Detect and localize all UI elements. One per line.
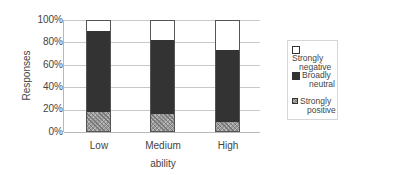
legend-item-strongly-positive: Stronglypositive — [292, 97, 336, 115]
bar-low-strongly-negative — [87, 21, 110, 31]
legend-item-broadly-neutral: Broadlyneutral — [292, 71, 335, 89]
legend-swatch-dark-icon — [292, 72, 300, 80]
y-tick-20: 20% — [43, 104, 63, 114]
bar-medium-broadly-neutral — [151, 40, 174, 114]
y-tick-40: 40% — [43, 82, 63, 92]
plot-area — [64, 20, 260, 132]
legend-swatch-hatched-icon — [292, 98, 298, 104]
y-tick-100: 100% — [37, 15, 63, 25]
x-tick-low: Low — [69, 140, 129, 151]
x-tick-high: High — [198, 140, 258, 151]
y-axis-label: Responses — [21, 46, 32, 106]
bar-medium — [150, 20, 175, 132]
y-tick-60: 60% — [43, 60, 63, 70]
y-tick-80: 80% — [43, 37, 63, 47]
x-tick-medium: Medium — [133, 140, 193, 151]
bar-low-broadly-neutral — [87, 31, 110, 112]
bar-medium-strongly-positive — [151, 114, 174, 131]
bar-high-strongly-negative — [216, 21, 239, 50]
x-axis-line — [64, 132, 260, 133]
bar-low-strongly-positive — [87, 112, 110, 131]
bar-high-strongly-positive — [216, 122, 239, 131]
bar-low — [86, 20, 111, 132]
bar-high — [215, 20, 240, 132]
bar-medium-strongly-negative — [151, 21, 174, 40]
y-tick-0: 0% — [49, 127, 63, 137]
legend-item-strongly-negative: Stronglynegative — [292, 45, 337, 72]
stacked-bar-chart: Responses 100% 80% 60% 40% 20% 0% — [0, 0, 394, 175]
legend: Stronglynegative Broadlyneutral Strongly… — [287, 40, 338, 120]
bar-high-broadly-neutral — [216, 50, 239, 122]
x-axis-label: ability — [133, 158, 193, 169]
